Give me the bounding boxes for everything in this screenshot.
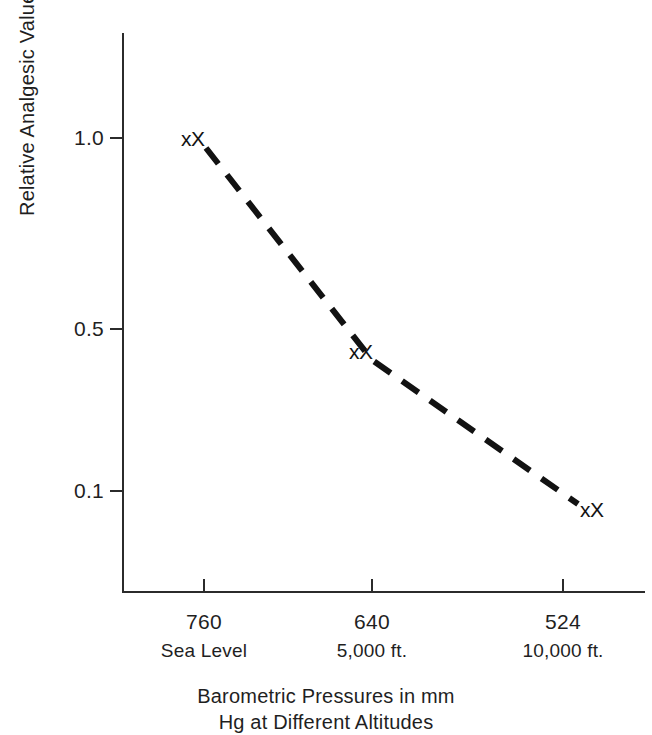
x-tick-label-3: 524 [463, 609, 652, 635]
data-point-marker-2: xX [349, 341, 373, 362]
y-tick-label-group-2: 0.5 [0, 318, 104, 339]
data-point-marker-1: xX [181, 128, 205, 149]
x-tick-mark-1 [203, 579, 205, 592]
x-tick-sublabel-3: 10,000 ft. [463, 638, 652, 664]
y-axis-line [122, 33, 124, 593]
x-axis-title-line-2: Hg at Different Altitudes [0, 709, 652, 735]
x-axis-line [122, 591, 645, 593]
x-tick-mark-3 [562, 579, 564, 592]
y-tick-mark-2 [110, 328, 123, 330]
y-tick-label-group-3: 0.1 [0, 480, 104, 501]
data-point-marker-3: xX [580, 499, 604, 520]
y-tick-mark-1 [110, 137, 123, 139]
x-axis-title-line-1: Barometric Pressures in mm [0, 683, 652, 709]
y-tick-mark-3 [110, 490, 123, 492]
dashed-trend-polyline [206, 148, 578, 504]
x-tick-mark-2 [371, 579, 373, 592]
x-tick-label-group-2: 640 5,000 ft. [272, 609, 472, 664]
y-axis-title: Relative Analgesic Value [14, 0, 40, 216]
y-tick-label-3: 0.1 [44, 480, 104, 501]
x-tick-label-group-3: 524 10,000 ft. [463, 609, 652, 664]
x-axis-title: Barometric Pressures in mm Hg at Differe… [0, 683, 652, 735]
x-tick-label-2: 640 [272, 609, 472, 635]
y-tick-label-2: 0.5 [44, 318, 104, 339]
analgesic-value-chart: 1.0 0.5 0.1 Relative Analgesic Value 760… [0, 0, 652, 735]
x-tick-sublabel-2: 5,000 ft. [272, 638, 472, 664]
y-tick-label-1: 1.0 [44, 127, 104, 148]
